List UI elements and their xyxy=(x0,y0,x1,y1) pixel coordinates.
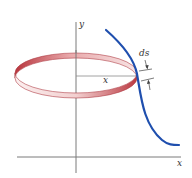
ds-arrowhead-upper xyxy=(145,65,148,70)
surface-of-revolution-figure: y x x ds xyxy=(0,0,192,178)
x-axis-label: x xyxy=(177,159,182,168)
ds-arrowhead-lower xyxy=(147,80,150,85)
ds-label: ds xyxy=(139,49,149,58)
radius-label: x xyxy=(103,76,108,85)
ds-tick-upper xyxy=(139,69,152,71)
diagram-canvas xyxy=(0,0,192,178)
y-axis-label: y xyxy=(79,20,84,29)
ds-tick-lower xyxy=(141,78,154,81)
